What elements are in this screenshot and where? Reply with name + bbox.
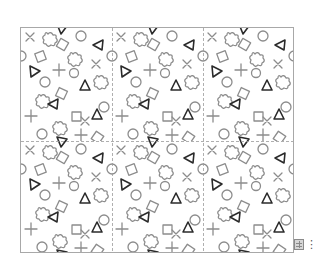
more-options-icon[interactable]: ⋮ <box>306 238 312 252</box>
pattern-image <box>20 27 294 253</box>
shape-pattern <box>21 28 294 253</box>
table-view-icon[interactable] <box>294 239 304 250</box>
cropped-caption-strip <box>6 0 274 4</box>
